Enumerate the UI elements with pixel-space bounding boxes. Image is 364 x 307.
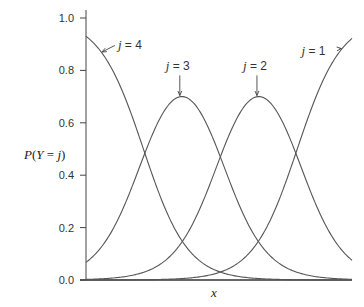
y-tick-label: 0.8 <box>59 64 74 76</box>
y-tick-label: 0.4 <box>59 169 74 181</box>
annotation-label: j = 1 <box>299 43 325 58</box>
y-tick-label: 1.0 <box>59 12 74 24</box>
annotation-label: j = 2 <box>241 58 267 73</box>
y-axis-label: P(Y = j) <box>23 147 65 162</box>
curve-j2 <box>86 97 352 280</box>
annotation-j4: j = 4 <box>102 37 142 52</box>
annotation-arrow <box>102 45 115 52</box>
y-tick-label: 0.6 <box>59 117 74 129</box>
annotation-j1: j = 1 <box>299 43 341 58</box>
probability-curves <box>86 36 352 280</box>
ordinal-probability-chart: 0.00.20.40.60.81.0 j = 4j = 3j = 2j = 1 … <box>0 0 364 307</box>
curve-j3 <box>86 97 352 280</box>
curve-j4 <box>86 36 352 280</box>
x-axis-label: x <box>210 285 217 300</box>
annotation-j2: j = 2 <box>241 58 267 95</box>
y-tick-label: 0.2 <box>59 222 74 234</box>
annotation-label: j = 4 <box>116 37 142 52</box>
annotation-j3: j = 3 <box>164 58 190 95</box>
annotation-label: j = 3 <box>164 58 190 73</box>
y-tick-label: 0.0 <box>59 274 74 286</box>
curve-annotations: j = 4j = 3j = 2j = 1 <box>102 37 341 95</box>
